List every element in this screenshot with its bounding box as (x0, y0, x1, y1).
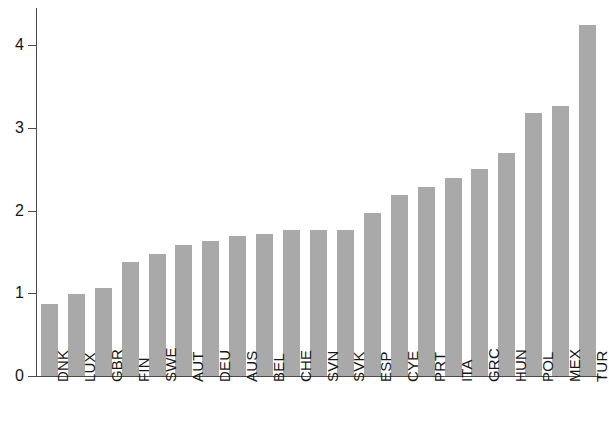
x-axis-tick-label: AUS (244, 322, 259, 382)
x-axis-tick-label: AUT (190, 322, 205, 382)
x-axis-tick-label: SWE (163, 322, 178, 382)
x-axis-tick-label: GBR (109, 322, 124, 382)
y-axis-tick-label: 0 (0, 368, 24, 384)
x-axis-tick-label: LUX (82, 322, 97, 382)
x-axis-tick-label: CHE (298, 322, 313, 382)
y-axis-tick-label: 2 (0, 203, 24, 219)
x-axis-tick-label: TUR (594, 322, 609, 382)
y-axis-tick (28, 45, 36, 46)
x-axis-tick-label: FIN (136, 322, 151, 382)
x-axis-tick-label: DNK (55, 322, 70, 382)
bar-chart: 01234 DNKLUXGBRFINSWEAUTDEUAUSBELCHESVNS… (0, 0, 609, 441)
x-axis-tick-label: DEU (217, 322, 232, 382)
x-axis-tick-label: BEL (271, 322, 286, 382)
x-axis-tick-label: ESP (378, 322, 393, 382)
y-axis-tick (28, 293, 36, 294)
x-axis-labels: DNKLUXGBRFINSWEAUTDEUAUSBELCHESVNSVKESPC… (36, 376, 601, 441)
bar-series (36, 8, 601, 376)
y-axis-tick-label: 1 (0, 285, 24, 301)
x-axis-tick-label: SVN (325, 322, 340, 382)
y-axis-tick (28, 128, 36, 129)
x-axis-tick-label: MEX (567, 322, 582, 382)
x-axis-tick-label: SVK (351, 322, 366, 382)
x-axis-tick-label: GRC (486, 322, 501, 382)
x-axis-tick-label: POL (540, 322, 555, 382)
y-axis-tick-label: 3 (0, 120, 24, 136)
x-axis-tick-label: ITA (459, 322, 474, 382)
x-axis-tick-label: PRT (432, 322, 447, 382)
x-axis-tick-label: HUN (513, 322, 528, 382)
x-axis-tick-label: CYE (405, 322, 420, 382)
y-axis-labels: 01234 (0, 0, 24, 441)
y-axis-tick (28, 211, 36, 212)
y-axis-tick-label: 4 (0, 37, 24, 53)
